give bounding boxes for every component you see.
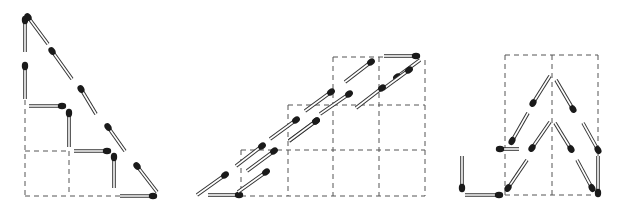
matchstick — [22, 62, 28, 99]
matchstick-diagram — [0, 0, 622, 210]
match-head-icon — [595, 189, 601, 197]
match-head-icon — [103, 148, 111, 154]
matchstick — [208, 192, 243, 198]
match-head-icon — [22, 62, 28, 70]
matchstick — [74, 148, 111, 154]
matchstick — [345, 57, 376, 82]
match-head-icon — [66, 109, 72, 117]
matchstick — [556, 80, 578, 114]
matchstick — [356, 83, 387, 108]
matchstick — [383, 65, 414, 89]
matchstick — [320, 89, 354, 114]
matchstick — [465, 192, 503, 198]
matchstick — [111, 153, 117, 188]
match-head-icon — [459, 184, 465, 192]
matchstick — [496, 146, 519, 152]
match-head-icon — [149, 193, 157, 199]
matchstick — [577, 160, 597, 193]
matchstick — [583, 123, 603, 155]
figure-parallelogram-staircase — [197, 53, 425, 198]
matchstick — [238, 167, 271, 192]
matchstick — [555, 123, 576, 154]
matchstick — [66, 109, 72, 147]
matchsticks — [459, 76, 603, 198]
matchstick — [384, 53, 420, 59]
match-head-icon — [111, 153, 117, 161]
matchstick — [47, 46, 72, 79]
figure-arrow-with-hook — [459, 55, 603, 198]
matchstick — [507, 113, 528, 146]
matchstick — [103, 122, 125, 151]
match-head-icon — [495, 192, 503, 198]
match-head-icon — [412, 53, 420, 59]
matchstick — [527, 122, 550, 153]
matchstick — [595, 156, 601, 197]
matchstick — [197, 170, 230, 195]
matchstick — [528, 76, 550, 108]
matchsticks — [22, 12, 157, 199]
matchstick — [503, 160, 527, 193]
dashed-grid — [25, 100, 155, 196]
matchstick — [29, 103, 66, 109]
matchstick — [459, 156, 465, 192]
matchstick — [120, 193, 157, 199]
matchstick — [76, 84, 96, 114]
matchsticks — [197, 53, 420, 198]
matchstick — [132, 161, 157, 192]
match-head-icon — [58, 103, 66, 109]
figure-staircase-triangle — [22, 12, 157, 199]
match-head-icon — [496, 146, 504, 152]
matchstick — [22, 16, 28, 52]
